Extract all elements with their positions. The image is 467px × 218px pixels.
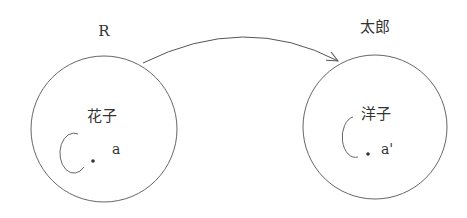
right-outer-label: 太郎 [360, 18, 390, 36]
left-arc-icon [60, 133, 84, 173]
mapping-arrow [143, 37, 338, 63]
left-inner-label: 花子 [87, 107, 117, 125]
diagram-canvas: R 花子 a 太郎 洋子 a' [0, 0, 467, 218]
right-circle [303, 55, 447, 199]
right-arc-icon [342, 117, 358, 157]
left-outer-label: R [98, 22, 110, 40]
right-point-dot [366, 152, 370, 156]
left-point-label: a [112, 141, 120, 157]
right-world: 太郎 洋子 a' [303, 18, 447, 199]
right-inner-label: 洋子 [361, 105, 391, 123]
left-world: R 花子 a [31, 22, 177, 202]
left-circle [31, 56, 177, 202]
left-point-dot [91, 159, 95, 163]
right-point-label: a' [381, 141, 393, 157]
